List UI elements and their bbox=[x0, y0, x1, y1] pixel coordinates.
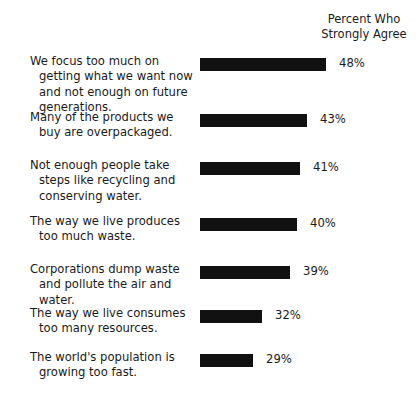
bar-value-label: 41% bbox=[313, 160, 339, 175]
bar-category-label-line: too many resources. bbox=[39, 321, 158, 335]
bar-category-label-line: are overpackaged. bbox=[64, 125, 172, 139]
chart-row: Not enough people take steps like recycl… bbox=[0, 158, 420, 214]
bar-category-label-line: growing too fast. bbox=[39, 365, 137, 379]
bar bbox=[200, 162, 300, 175]
bar bbox=[200, 354, 253, 367]
bar-category-label: The world's population is growing too fa… bbox=[30, 350, 196, 381]
bar-category-label: Corporations dump waste and pollute the … bbox=[30, 262, 196, 308]
bar-category-label: The way we live produces too much waste. bbox=[30, 214, 196, 245]
bar bbox=[200, 266, 290, 279]
bar bbox=[200, 310, 262, 323]
bar-track bbox=[200, 354, 253, 367]
bar-category-label-line: much waste. bbox=[61, 229, 135, 243]
bar-track bbox=[200, 218, 297, 231]
bar-value-label: 48% bbox=[339, 56, 365, 71]
bar-track bbox=[200, 162, 300, 175]
bar-category-label-line: and pollute the air and water. bbox=[39, 277, 171, 306]
bar bbox=[200, 114, 307, 127]
bar-category-label-line: The way we live consumes bbox=[30, 306, 185, 320]
bar-value-label: 32% bbox=[275, 308, 301, 323]
bar-track bbox=[200, 310, 262, 323]
value-column-header-line1: Percent Who bbox=[312, 12, 416, 27]
chart-row: The world's population is growing too fa… bbox=[0, 350, 420, 394]
bar-value-label: 29% bbox=[266, 352, 292, 367]
bar-category-label: The way we live consumes too many resour… bbox=[30, 306, 196, 337]
bar-track bbox=[200, 58, 326, 71]
bar bbox=[200, 218, 297, 231]
bar-category-label: Many of the products we buy are overpack… bbox=[30, 110, 196, 141]
bar-category-label: We focus too much on getting what we wan… bbox=[30, 54, 196, 116]
bar-value-label: 39% bbox=[303, 264, 329, 279]
bar-category-label-line: water. bbox=[106, 189, 142, 203]
value-column-header: Percent Who Strongly Agree bbox=[312, 12, 416, 42]
chart-row: Corporations dump waste and pollute the … bbox=[0, 262, 420, 306]
value-column-header-line2: Strongly Agree bbox=[312, 27, 416, 42]
bar-track bbox=[200, 114, 307, 127]
chart-row: Many of the products we buy are overpack… bbox=[0, 110, 420, 158]
bar-chart: Percent Who Strongly Agree We focus too … bbox=[0, 0, 420, 395]
chart-rows: We focus too much on getting what we wan… bbox=[0, 54, 420, 394]
bar-value-label: 40% bbox=[310, 216, 336, 231]
bar-track bbox=[200, 266, 290, 279]
chart-row: The way we live produces too much waste.… bbox=[0, 214, 420, 262]
bar-category-label-line: The world's population is bbox=[30, 350, 175, 364]
bar-category-label: Not enough people take steps like recycl… bbox=[30, 158, 196, 204]
bar bbox=[200, 58, 326, 71]
bar-category-label-line: Corporations dump waste bbox=[30, 262, 180, 276]
bar-value-label: 43% bbox=[320, 112, 346, 127]
chart-row: The way we live consumes too many resour… bbox=[0, 306, 420, 350]
chart-row: We focus too much on getting what we wan… bbox=[0, 54, 420, 110]
